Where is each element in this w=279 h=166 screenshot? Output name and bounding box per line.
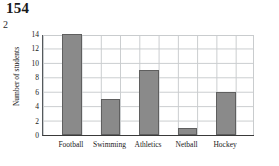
x-axis-tick: Football [58,140,83,149]
x-axis-tick-labels: FootballSwimmingAthleticsNetballHockey [42,140,254,154]
x-axis-tick: Athletics [134,140,161,149]
plot-area [42,35,254,136]
y-axis-tick: 14 [25,31,39,39]
y-axis-tick: 10 [25,60,39,68]
bar-series [43,35,254,135]
y-axis-tick: 12 [25,46,39,54]
x-axis-tick: Hockey [213,140,236,149]
page-number: 154 [6,0,29,17]
y-axis-title: Number of students [12,37,21,117]
y-axis-tick: 6 [25,89,39,97]
y-axis-tick: 4 [25,103,39,111]
bar-chart: Number of students 02468101214 FootballS… [0,30,279,166]
question-number: 2 [3,19,8,30]
bar [178,128,197,135]
bar [101,99,120,135]
x-axis-tick: Netball [175,140,197,149]
bar [216,92,235,135]
x-axis-tick: Swimming [93,140,126,149]
y-axis-tick: 8 [25,75,39,83]
y-axis-tick: 0 [25,132,39,140]
y-axis-tick-labels: 02468101214 [25,35,39,136]
y-axis-tick: 2 [25,118,39,126]
bar [139,70,158,135]
bar [62,34,81,135]
